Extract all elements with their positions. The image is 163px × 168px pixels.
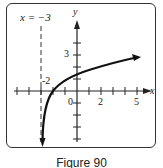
graph: x = −3 y x 3 -2 0 2 5: [0, 0, 163, 168]
x-tick-label-neg2: -2: [42, 75, 50, 86]
y-tick-label-3: 3: [64, 48, 69, 59]
y-axis-arrow-icon: [74, 20, 80, 29]
y-axis-label: y: [72, 6, 78, 17]
x-tick-label-2: 2: [98, 96, 103, 107]
x-tick-label-5: 5: [134, 96, 139, 107]
asymptote-label: x = −3: [19, 11, 51, 23]
origin-label: 0: [68, 96, 73, 107]
figure-caption: Figure 90: [0, 156, 163, 168]
x-axis-label: x: [149, 85, 155, 96]
curve-arrow-right-icon: [132, 54, 141, 61]
curve-arrow-down-icon: [40, 138, 46, 147]
function-curve: [43, 58, 135, 140]
